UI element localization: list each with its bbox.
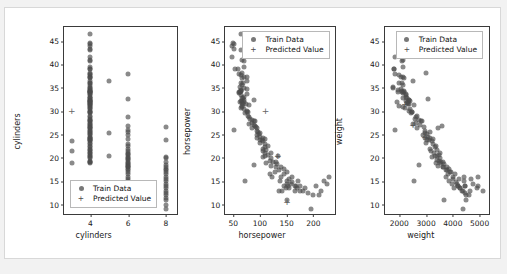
y-tick-label: 35 bbox=[370, 83, 385, 92]
train-point bbox=[461, 207, 466, 212]
train-point bbox=[88, 31, 93, 36]
train-point bbox=[232, 127, 237, 132]
subplot-grid: cylinders Train Data + Predicted Value 1… bbox=[5, 8, 500, 258]
matplotlib-figure-card: cylinders Train Data + Predicted Value 1… bbox=[4, 7, 501, 259]
train-point bbox=[107, 79, 112, 84]
legend-label-train: Train Data bbox=[419, 35, 457, 45]
train-point bbox=[440, 165, 445, 170]
train-point bbox=[449, 169, 454, 174]
predicted-point bbox=[421, 133, 428, 140]
y-tick-label: 25 bbox=[211, 130, 226, 139]
y-tick-label: 10 bbox=[211, 200, 226, 209]
y-tick-label: 20 bbox=[370, 153, 385, 162]
train-point bbox=[319, 188, 324, 193]
x-tick-label: 5000 bbox=[470, 214, 489, 228]
train-point bbox=[247, 103, 252, 108]
train-point bbox=[232, 46, 237, 51]
y-tick-label: 30 bbox=[370, 107, 385, 116]
x-axis-label-horsepower: horsepower bbox=[182, 231, 341, 240]
y-tick-label: 10 bbox=[49, 200, 64, 209]
y-tick-label: 30 bbox=[211, 107, 226, 116]
train-point bbox=[308, 207, 313, 212]
x-tick-label: 3000 bbox=[417, 214, 436, 228]
train-point bbox=[69, 138, 74, 143]
train-point bbox=[410, 79, 415, 84]
circle-marker-icon bbox=[401, 35, 413, 45]
y-tick-label: 10 bbox=[370, 200, 385, 209]
legend-row-predicted: + Predicted Value bbox=[401, 45, 477, 55]
train-point bbox=[107, 154, 112, 159]
train-point bbox=[297, 183, 302, 188]
plus-marker-icon: + bbox=[75, 194, 87, 204]
x-tick-label: 50 bbox=[229, 214, 239, 228]
legend-label-predicted: Predicted Value bbox=[419, 45, 477, 55]
y-tick-label: 30 bbox=[49, 107, 64, 116]
train-point bbox=[69, 148, 74, 153]
axes-weight: Train Data + Predicted Value 10152025303… bbox=[384, 26, 490, 215]
train-point bbox=[305, 190, 310, 195]
train-point bbox=[296, 179, 301, 184]
x-tick-label: 4 bbox=[88, 214, 93, 228]
train-point bbox=[243, 179, 248, 184]
train-point bbox=[251, 97, 256, 102]
train-point bbox=[69, 160, 74, 165]
y-axis-label-weight: weight bbox=[335, 118, 344, 145]
train-point bbox=[267, 172, 272, 177]
train-point bbox=[88, 47, 93, 52]
predicted-point bbox=[68, 108, 75, 115]
train-point bbox=[470, 181, 475, 186]
legend-row-predicted: + Predicted Value bbox=[247, 45, 323, 55]
train-point bbox=[257, 140, 262, 145]
y-tick-label: 15 bbox=[211, 177, 226, 186]
train-point bbox=[107, 130, 112, 135]
y-tick-label: 45 bbox=[211, 37, 226, 46]
train-point bbox=[88, 58, 93, 63]
y-tick-label: 20 bbox=[211, 153, 226, 162]
x-axis-label-weight: weight bbox=[342, 231, 500, 240]
train-point bbox=[163, 125, 168, 130]
x-tick-label: 150 bbox=[279, 214, 293, 228]
predicted-point bbox=[262, 108, 269, 115]
legend-horsepower: Train Data + Predicted Value bbox=[242, 31, 329, 59]
y-tick-label: 45 bbox=[370, 37, 385, 46]
train-point bbox=[440, 124, 445, 129]
x-tick-label: 100 bbox=[253, 214, 267, 228]
train-point bbox=[416, 162, 421, 167]
circle-marker-icon bbox=[75, 184, 87, 194]
subplot-cylinders: cylinders Train Data + Predicted Value 1… bbox=[5, 8, 182, 258]
y-tick-label: 40 bbox=[49, 60, 64, 69]
predicted-point bbox=[274, 153, 281, 160]
x-tick-label: 6 bbox=[126, 214, 131, 228]
x-tick-label: 2000 bbox=[390, 214, 409, 228]
train-point bbox=[475, 186, 480, 191]
train-point bbox=[241, 65, 246, 70]
y-axis-label-horsepower: horsepower bbox=[183, 108, 192, 155]
subplot-weight: weight Train Data + Predicted Value 1015… bbox=[342, 8, 500, 258]
axes-cylinders: Train Data + Predicted Value 10152025303… bbox=[63, 26, 178, 215]
train-point bbox=[163, 207, 168, 212]
y-tick-label: 40 bbox=[370, 60, 385, 69]
y-tick-label: 25 bbox=[49, 130, 64, 139]
predicted-point bbox=[401, 101, 408, 108]
subplot-horsepower: horsepower Train Data + Predicted Value … bbox=[182, 8, 341, 258]
legend-label-predicted: Predicted Value bbox=[265, 45, 323, 55]
train-point bbox=[468, 188, 473, 193]
y-tick-label: 45 bbox=[49, 37, 64, 46]
train-point bbox=[278, 179, 283, 184]
predicted-point bbox=[283, 199, 290, 206]
train-point bbox=[468, 176, 473, 181]
train-point bbox=[462, 174, 467, 179]
train-point bbox=[303, 186, 308, 191]
train-point bbox=[321, 179, 326, 184]
train-point bbox=[230, 55, 235, 60]
train-point bbox=[476, 174, 481, 179]
legend-weight: Train Data + Predicted Value bbox=[396, 31, 483, 59]
legend-row-train: Train Data bbox=[247, 35, 323, 45]
x-tick-label: 4000 bbox=[443, 214, 462, 228]
circle-marker-icon bbox=[247, 35, 259, 45]
train-point bbox=[289, 174, 294, 179]
legend-label-train: Train Data bbox=[93, 184, 131, 194]
legend-row-predicted: + Predicted Value bbox=[75, 194, 151, 204]
train-point bbox=[292, 188, 297, 193]
train-point bbox=[327, 174, 332, 179]
